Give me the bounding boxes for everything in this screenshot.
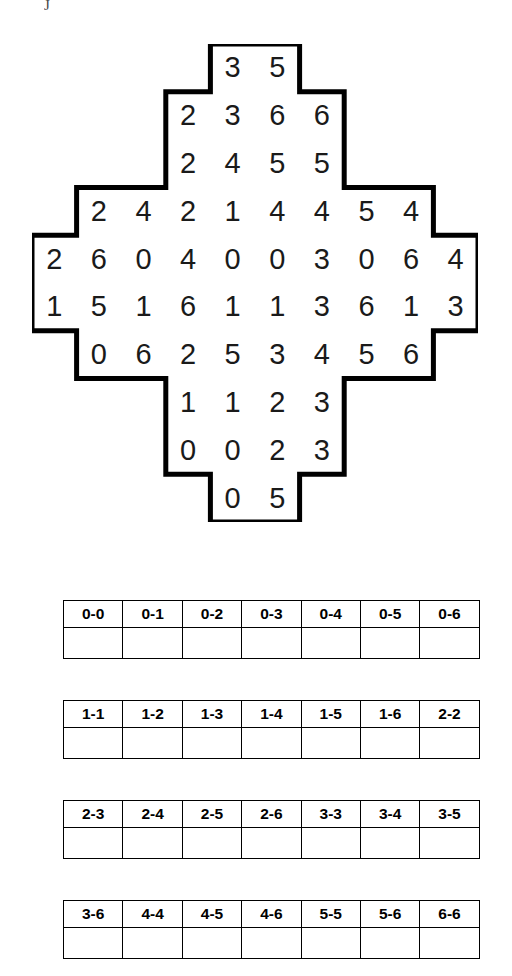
domino-checkbox-5-5[interactable] (301, 928, 360, 959)
domino-checkbox-2-4[interactable] (123, 828, 182, 859)
domino-checkbox-2-2[interactable] (420, 728, 479, 759)
domino-checkbox-0-3[interactable] (242, 628, 301, 659)
domino-label-0-3: 0-3 (242, 601, 301, 628)
grid-cell-r3-c1[interactable]: 2 (77, 187, 122, 235)
grid-cell-r2-c6[interactable]: 5 (300, 140, 345, 188)
domino-checkbox-3-5[interactable] (420, 828, 479, 859)
grid-cell-r4-c2[interactable]: 0 (121, 235, 166, 283)
domino-puzzle-grid[interactable]: 3523662455242144542604003064151611361306… (32, 44, 478, 522)
grid-cell-r5-c4[interactable]: 1 (210, 283, 255, 331)
grid-cell-r5-c7[interactable]: 6 (344, 283, 389, 331)
grid-cell-r8-c3[interactable]: 0 (166, 426, 211, 474)
grid-cell-r4-c4[interactable]: 0 (210, 235, 255, 283)
domino-checklist-table-2: 1-11-21-31-41-51-62-2 (63, 700, 480, 759)
grid-cell-r8-c4[interactable]: 0 (210, 426, 255, 474)
grid-cell-r1-c3[interactable]: 2 (166, 92, 211, 140)
domino-label-6-6: 6-6 (420, 901, 479, 928)
domino-checkbox-1-1[interactable] (64, 728, 123, 759)
grid-cell-r2-c3[interactable]: 2 (166, 140, 211, 188)
grid-cell-r3-c4[interactable]: 1 (210, 187, 255, 235)
domino-checkbox-0-5[interactable] (360, 628, 419, 659)
grid-cell-r6-c4[interactable]: 5 (210, 331, 255, 379)
domino-checkbox-0-2[interactable] (182, 628, 241, 659)
grid-cell-r1-c6[interactable]: 6 (300, 92, 345, 140)
domino-checkbox-4-5[interactable] (182, 928, 241, 959)
domino-checkbox-1-6[interactable] (360, 728, 419, 759)
grid-cell-r4-c5[interactable]: 0 (255, 235, 300, 283)
grid-cell-r4-c6[interactable]: 3 (300, 235, 345, 283)
grid-cell-r4-c0[interactable]: 2 (32, 235, 77, 283)
domino-checkbox-0-6[interactable] (420, 628, 479, 659)
grid-cell-r6-c2[interactable]: 6 (121, 331, 166, 379)
grid-cell-r6-c1[interactable]: 0 (77, 331, 122, 379)
grid-cell-r6-c8[interactable]: 6 (389, 331, 434, 379)
grid-cell-r3-c5[interactable]: 4 (255, 187, 300, 235)
grid-cell-r5-c8[interactable]: 1 (389, 283, 434, 331)
grid-cell-r7-c6[interactable]: 3 (300, 379, 345, 427)
grid-cell-r3-c7[interactable]: 5 (344, 187, 389, 235)
grid-cell-r3-c2[interactable]: 4 (121, 187, 166, 235)
domino-label-2-3: 2-3 (64, 801, 123, 828)
domino-label-0-0: 0-0 (64, 601, 123, 628)
domino-checkbox-3-4[interactable] (360, 828, 419, 859)
domino-label-4-6: 4-6 (242, 901, 301, 928)
grid-cell-r5-c3[interactable]: 6 (166, 283, 211, 331)
domino-checkbox-0-4[interactable] (301, 628, 360, 659)
domino-checkbox-6-6[interactable] (420, 928, 479, 959)
grid-cell-r4-c9[interactable]: 4 (433, 235, 478, 283)
grid-cell-r4-c1[interactable]: 6 (77, 235, 122, 283)
domino-checkbox-1-3[interactable] (182, 728, 241, 759)
grid-cell-r7-c3[interactable]: 1 (166, 379, 211, 427)
table-row: 2-32-42-52-63-33-43-5 (64, 801, 480, 828)
domino-checkbox-2-6[interactable] (242, 828, 301, 859)
domino-checklist-table-3: 2-32-42-52-63-33-43-5 (63, 800, 480, 859)
grid-cell-r5-c2[interactable]: 1 (121, 283, 166, 331)
grid-cell-r8-c5[interactable]: 2 (255, 426, 300, 474)
grid-cell-r9-c4[interactable]: 0 (210, 474, 255, 522)
grid-cell-r3-c6[interactable]: 4 (300, 187, 345, 235)
domino-checkbox-1-2[interactable] (123, 728, 182, 759)
grid-cell-r2-c4[interactable]: 4 (210, 140, 255, 188)
domino-checkbox-3-6[interactable] (64, 928, 123, 959)
grid-cell-r5-c1[interactable]: 5 (77, 283, 122, 331)
domino-label-2-4: 2-4 (123, 801, 182, 828)
table-row (64, 728, 480, 759)
grid-cell-r9-c5[interactable]: 5 (255, 474, 300, 522)
grid-cell-r5-c6[interactable]: 3 (300, 283, 345, 331)
grid-cell-r7-c4[interactable]: 1 (210, 379, 255, 427)
domino-checkbox-5-6[interactable] (360, 928, 419, 959)
grid-cell-r4-c3[interactable]: 4 (166, 235, 211, 283)
table-row: 0-00-10-20-30-40-50-6 (64, 601, 480, 628)
domino-label-1-4: 1-4 (242, 701, 301, 728)
grid-cell-r5-c9[interactable]: 3 (433, 283, 478, 331)
domino-label-1-2: 1-2 (123, 701, 182, 728)
grid-cell-r4-c8[interactable]: 6 (389, 235, 434, 283)
grid-cell-r3-c3[interactable]: 2 (166, 187, 211, 235)
domino-checkbox-3-3[interactable] (301, 828, 360, 859)
domino-label-4-4: 4-4 (123, 901, 182, 928)
grid-cell-r7-c5[interactable]: 2 (255, 379, 300, 427)
domino-checkbox-2-3[interactable] (64, 828, 123, 859)
grid-cell-r5-c5[interactable]: 1 (255, 283, 300, 331)
domino-label-2-5: 2-5 (182, 801, 241, 828)
domino-checkbox-2-5[interactable] (182, 828, 241, 859)
grid-cell-r3-c8[interactable]: 4 (389, 187, 434, 235)
domino-checkbox-0-1[interactable] (123, 628, 182, 659)
grid-cell-r4-c7[interactable]: 0 (344, 235, 389, 283)
domino-checkbox-1-4[interactable] (242, 728, 301, 759)
grid-cell-r6-c5[interactable]: 3 (255, 331, 300, 379)
grid-cell-r5-c0[interactable]: 1 (32, 283, 77, 331)
grid-cell-r0-c4[interactable]: 3 (210, 44, 255, 92)
domino-checkbox-4-4[interactable] (123, 928, 182, 959)
domino-checkbox-1-5[interactable] (301, 728, 360, 759)
grid-cell-r6-c6[interactable]: 4 (300, 331, 345, 379)
grid-cell-r6-c7[interactable]: 5 (344, 331, 389, 379)
grid-cell-r1-c4[interactable]: 3 (210, 92, 255, 140)
grid-cell-r6-c3[interactable]: 2 (166, 331, 211, 379)
grid-cell-r1-c5[interactable]: 6 (255, 92, 300, 140)
domino-checkbox-4-6[interactable] (242, 928, 301, 959)
grid-cell-r2-c5[interactable]: 5 (255, 140, 300, 188)
domino-checkbox-0-0[interactable] (64, 628, 123, 659)
grid-cell-r8-c6[interactable]: 3 (300, 426, 345, 474)
grid-cell-r0-c5[interactable]: 5 (255, 44, 300, 92)
